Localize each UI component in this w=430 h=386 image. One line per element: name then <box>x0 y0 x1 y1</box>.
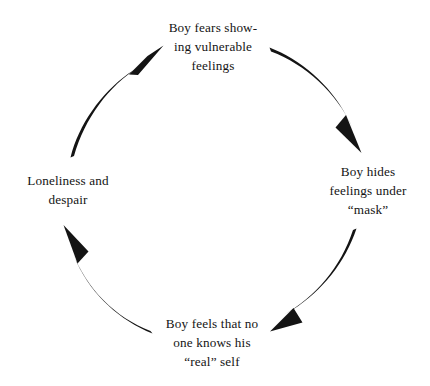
cycle-diagram: Boy fears show- ing vulnerable feelings … <box>0 0 430 386</box>
cycle-node-no-one-knows: Boy feels that no one knows his “real” s… <box>127 314 297 371</box>
cycle-node-loneliness-despair: Loneliness and despair <box>3 171 133 209</box>
cycle-node-hides-under-mask: Boy hides feelings under “mask” <box>306 162 430 219</box>
cycle-node-fears-showing: Boy fears show- ing vulnerable feelings <box>128 18 298 75</box>
